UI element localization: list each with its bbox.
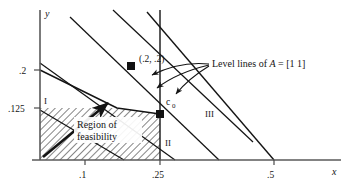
y-axis-label: y — [44, 8, 50, 19]
corner-point-label-subscript: 0 — [172, 102, 176, 110]
region-label-line-2: feasibility — [77, 131, 117, 142]
y-tick-label-0.2: .2 — [19, 66, 26, 76]
linear-programming-figure: y x .2 .125 .1 .25 .5 (.2, .2) Region of… — [0, 0, 348, 191]
legend-text-pre: Level lines of — [212, 58, 269, 69]
legend-label: Level lines of A = [1 1] — [212, 58, 305, 69]
corner-point-marker — [156, 110, 164, 118]
region-label-I: I — [44, 96, 47, 106]
region-label-line-1: Region of — [77, 119, 117, 130]
figure-canvas: y x .2 .125 .1 .25 .5 (.2, .2) Region of… — [0, 0, 348, 191]
legend-text-post: = [1 1] — [276, 58, 306, 69]
x-tick-label-0.1: .1 — [79, 170, 86, 180]
y-tick-label-0.125: .125 — [8, 104, 25, 114]
x-tick-label-0.5: .5 — [267, 170, 274, 180]
x-axis-label: x — [331, 166, 337, 177]
optimum-point-marker — [127, 62, 135, 70]
x-tick-label-0.25: .25 — [152, 170, 164, 180]
corner-point-label: c — [166, 97, 170, 107]
region-label-II: II — [165, 138, 171, 148]
region-label-III: III — [205, 109, 214, 119]
optimum-point-label: (.2, .2) — [139, 54, 164, 65]
